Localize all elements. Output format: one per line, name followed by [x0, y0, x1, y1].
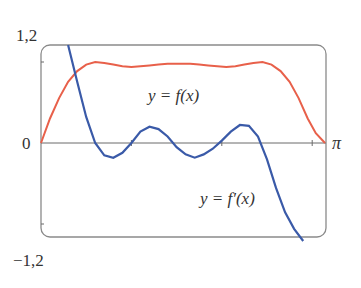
- f-annotation: y = f(x): [146, 86, 199, 105]
- x-label-pi: π: [332, 133, 342, 153]
- chart: 1,2 0 −1,2 π y = f(x) y = f′(x): [0, 0, 361, 288]
- f-prime-annotation: y = f′(x): [198, 189, 255, 208]
- y-label-bottom: −1,2: [13, 251, 44, 270]
- y-label-zero: 0: [22, 134, 31, 153]
- y-label-top: 1,2: [16, 26, 37, 45]
